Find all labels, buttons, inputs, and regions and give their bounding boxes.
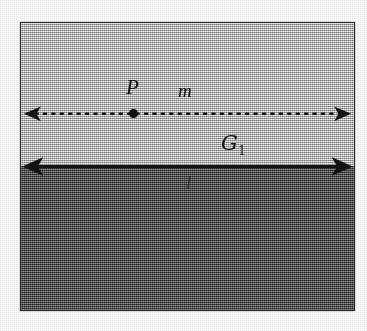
label-line-m: m <box>178 81 192 100</box>
point-P-marker <box>129 109 138 118</box>
label-region-g1-subscript: 1 <box>238 144 246 158</box>
label-region-g1-letter: G <box>221 131 238 155</box>
line-layer <box>21 23 354 310</box>
label-region-g1: G1 <box>221 133 246 157</box>
label-line-l: l <box>186 173 191 192</box>
figure-root: P m G1 l <box>0 0 367 331</box>
label-point-p: P <box>126 77 139 98</box>
diagram-frame: P m G1 l <box>20 22 355 311</box>
